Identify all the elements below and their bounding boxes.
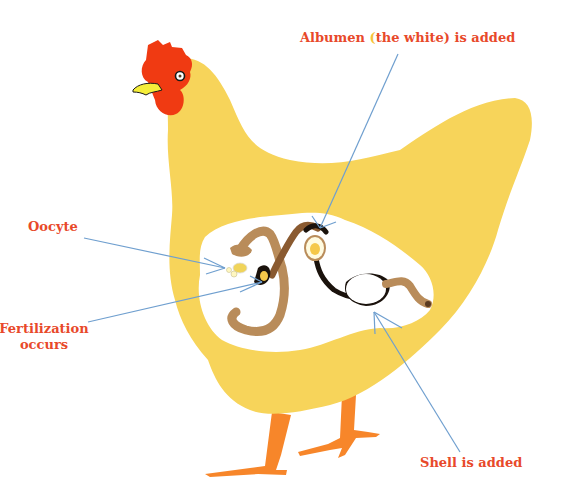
hen-illustration (0, 0, 581, 503)
label-albumen: Albumen (the white) is added (300, 30, 515, 46)
label-albumen-text-rest: the white) is added (376, 30, 516, 45)
label-fertilization-line2: occurs (0, 337, 94, 353)
label-oocyte: Oocyte (28, 219, 78, 235)
label-shell: Shell is added (420, 455, 522, 471)
hen-reproduction-diagram: Albumen (the white) is added Oocyte Fert… (0, 0, 581, 503)
hen-head (133, 40, 192, 115)
label-fertilization-line1: Fertilization (0, 321, 94, 337)
label-albumen-text: Albumen (300, 30, 370, 45)
label-fertilization: Fertilization occurs (0, 321, 94, 353)
